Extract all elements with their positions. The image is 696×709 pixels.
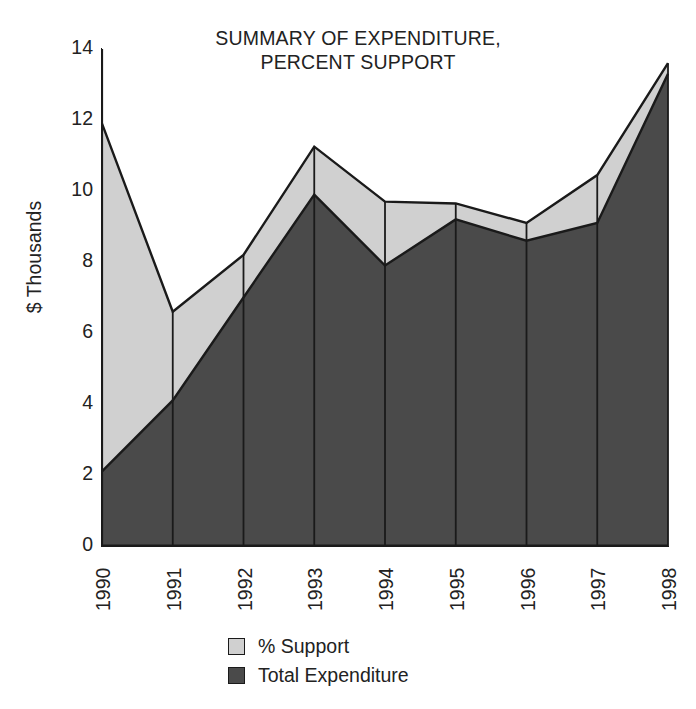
chart-container: SUMMARY OF EXPENDITURE, PERCENT SUPPORT …: [0, 0, 696, 709]
x-axis-tick-label: 1997: [589, 568, 609, 611]
legend-item[interactable]: % Support: [228, 632, 528, 661]
legend-label: Total Expenditure: [258, 664, 409, 687]
y-axis-tick-label: 4: [53, 393, 93, 413]
legend-label: % Support: [258, 635, 349, 658]
x-axis-tick-label: 1991: [165, 568, 185, 611]
legend-swatch-icon: [228, 638, 245, 655]
y-axis-tick-label: 0: [53, 535, 93, 555]
x-axis-tick-label: 1996: [519, 568, 539, 611]
x-axis-tick-label: 1992: [236, 568, 256, 611]
y-axis-tick-label: 6: [53, 322, 93, 342]
x-axis-tick-label: 1993: [306, 568, 326, 611]
chart-legend: % SupportTotal Expenditure: [228, 632, 528, 690]
x-axis-tick-label: 1995: [448, 568, 468, 611]
x-axis-tick-label: 1998: [660, 568, 680, 611]
y-axis-tick-label: 8: [53, 251, 93, 271]
x-axis-tick-label: 1994: [377, 568, 397, 611]
y-axis-tick-label: 2: [53, 464, 93, 484]
y-axis-tick-label: 10: [53, 180, 93, 200]
y-axis-tick-label: 12: [53, 109, 93, 129]
plot-area: [101, 48, 667, 545]
y-axis-title: $ Thousands: [23, 147, 46, 367]
legend-swatch-icon: [228, 667, 245, 684]
chart-svg: [101, 48, 669, 547]
x-axis-tick-label: 1990: [94, 568, 114, 611]
y-axis-tick-label: 14: [53, 38, 93, 58]
legend-item[interactable]: Total Expenditure: [228, 661, 528, 690]
